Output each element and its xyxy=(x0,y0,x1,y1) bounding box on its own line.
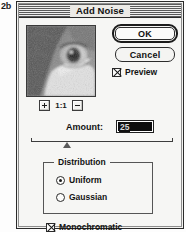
radio-label-uniform: Uniform xyxy=(69,175,102,185)
slider-track xyxy=(31,141,173,142)
preview-thumbnail[interactable] xyxy=(26,25,96,97)
preview-zoom-controls: 1:1 xyxy=(26,99,96,112)
slider-thumb[interactable] xyxy=(63,142,71,148)
dialog-title: Add Noise xyxy=(70,5,130,17)
radio-row-uniform[interactable]: Uniform xyxy=(56,175,102,185)
distribution-group-title: Distribution xyxy=(54,157,110,167)
monochromatic-checkbox-label: Monochromatic xyxy=(59,222,122,232)
cancel-button[interactable]: Cancel xyxy=(115,47,175,62)
screenshot-root: 2b Add Noise xyxy=(0,0,186,232)
radio-icon-uniform[interactable] xyxy=(56,176,65,185)
add-noise-dialog: Add Noise xyxy=(16,1,184,229)
radio-label-gaussian: Gaussian xyxy=(69,192,107,202)
radio-row-gaussian[interactable]: Gaussian xyxy=(56,192,107,202)
dialog-inner-frame: Add Noise xyxy=(18,3,182,227)
zoom-out-icon[interactable] xyxy=(72,100,83,111)
monochromatic-checkbox-row[interactable]: Monochromatic xyxy=(46,222,122,232)
preview-checkbox-row[interactable]: Preview xyxy=(112,67,157,77)
radio-icon-gaussian[interactable] xyxy=(56,193,65,202)
preview-checkbox-label: Preview xyxy=(125,67,157,77)
zoom-in-icon[interactable] xyxy=(39,100,50,111)
amount-label: Amount: xyxy=(66,122,103,133)
checkbox-icon-preview[interactable] xyxy=(112,68,121,77)
dialog-body: 1:1 OK Cancel Preview Amount: 25 xyxy=(19,19,181,226)
distribution-groupbox: Distribution Uniform Gaussian xyxy=(43,162,153,214)
checkbox-icon-monochromatic[interactable] xyxy=(46,223,55,232)
amount-input[interactable]: 25 xyxy=(116,120,154,133)
preview-image xyxy=(27,26,95,96)
ok-button[interactable]: OK xyxy=(115,27,175,40)
figure-label: 2b xyxy=(1,1,11,11)
dialog-titlebar[interactable]: Add Noise xyxy=(19,4,181,18)
zoom-level-label: 1:1 xyxy=(55,101,67,110)
amount-slider[interactable] xyxy=(31,139,173,151)
amount-value: 25 xyxy=(119,122,130,132)
